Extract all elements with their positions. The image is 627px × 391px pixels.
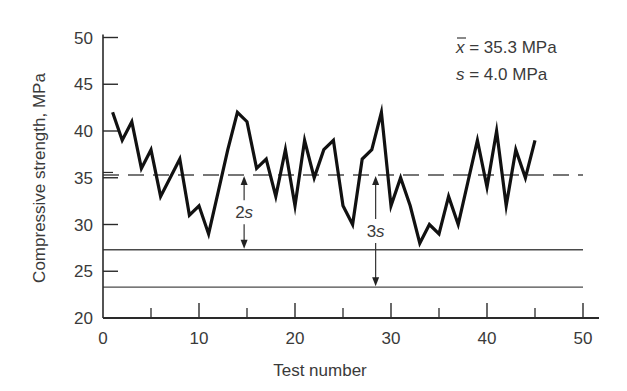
x-tick-label: 40 <box>478 329 497 348</box>
y-tick-label: 25 <box>74 262 93 281</box>
x-tick-label: 50 <box>574 329 593 348</box>
x-tick-label: 20 <box>286 329 305 348</box>
reference-lines <box>103 172 583 287</box>
y-tick-label: 20 <box>74 309 93 328</box>
x-tick-label: 10 <box>190 329 209 348</box>
arrowhead-up-icon <box>372 176 379 185</box>
x-tick-label: 0 <box>98 329 107 348</box>
data-series-line <box>113 112 535 243</box>
mean-symbol: x <box>455 38 465 57</box>
arrowhead-up-icon <box>241 176 248 185</box>
arrowhead-down-icon <box>241 240 248 249</box>
annotation-3s: 3s <box>367 222 385 241</box>
y-tick-label: 35 <box>74 169 93 188</box>
x-axis-ticks: 01020304050 <box>98 303 592 348</box>
annotation-2s: 2s <box>235 203 253 222</box>
y-tick-label: 50 <box>74 29 93 48</box>
sigma-annotations: 2s3s <box>235 176 385 286</box>
legend-sd: s = 4.0 MPa <box>456 65 548 84</box>
x-axis-label: Test number <box>273 361 367 380</box>
mean-value: = 35.3 MPa <box>465 38 558 57</box>
arrowhead-down-icon <box>372 277 379 286</box>
y-tick-label: 30 <box>74 216 93 235</box>
control-chart: 20253035404550 01020304050 2s3s Test num… <box>0 0 627 391</box>
y-tick-label: 40 <box>74 122 93 141</box>
y-tick-label: 45 <box>74 75 93 94</box>
y-axis-label: Compressive strength, MPa <box>30 73 49 283</box>
legend-mean: x = 35.3 MPa <box>455 38 557 57</box>
legend: x = 35.3 MPa s = 4.0 MPa <box>455 38 557 84</box>
x-tick-label: 30 <box>382 329 401 348</box>
y-axis-ticks: 20253035404550 <box>74 29 118 329</box>
sd-value: = 4.0 MPa <box>465 65 548 84</box>
